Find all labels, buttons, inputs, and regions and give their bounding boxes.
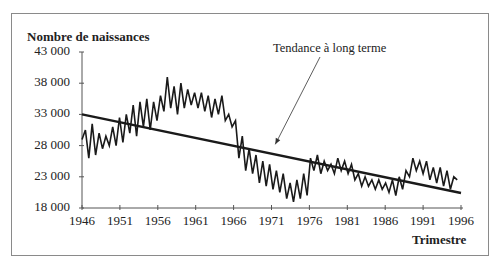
plot-area [0,0,504,269]
births-series-line [82,77,457,202]
annotation-arrow [275,57,320,144]
